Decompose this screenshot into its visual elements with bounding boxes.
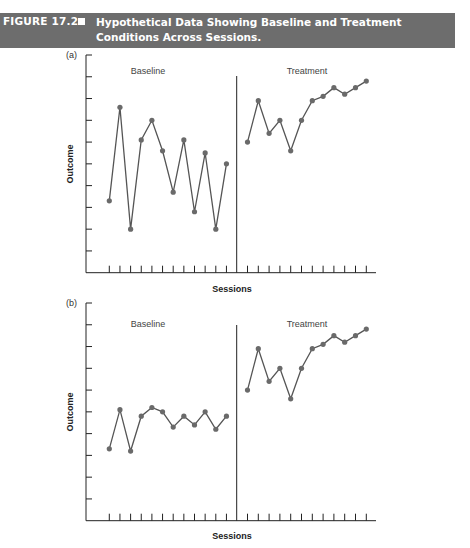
data-point	[160, 148, 165, 153]
chart-panel-b: (b)BaselineTreatmentSessionsOutcome	[65, 298, 376, 541]
data-point	[203, 150, 208, 155]
phase-label-baseline: Baseline	[131, 319, 166, 329]
data-point	[181, 137, 186, 142]
data-point	[245, 387, 250, 392]
data-point	[267, 131, 272, 136]
data-point	[288, 148, 293, 153]
data-point	[160, 409, 165, 414]
data-point	[321, 94, 326, 99]
data-point	[288, 396, 293, 401]
data-point	[213, 227, 218, 232]
data-point	[256, 346, 261, 351]
data-point	[224, 161, 229, 166]
data-point	[321, 342, 326, 347]
y-axis-label: Outcome	[65, 392, 75, 431]
data-point	[310, 346, 315, 351]
x-axis-label: Sessions	[212, 531, 252, 541]
x-axis-label: Sessions	[212, 284, 252, 294]
data-point	[353, 85, 358, 90]
data-point	[310, 98, 315, 103]
data-point	[277, 118, 282, 123]
phase-label-treatment: Treatment	[287, 66, 328, 76]
data-point	[245, 139, 250, 144]
data-point	[331, 333, 336, 338]
data-point	[117, 105, 122, 110]
phase-label-treatment: Treatment	[287, 319, 328, 329]
data-point	[149, 118, 154, 123]
data-point	[364, 327, 369, 332]
data-point	[128, 448, 133, 453]
y-axis-label: Outcome	[65, 144, 75, 183]
data-point	[277, 366, 282, 371]
data-point	[353, 333, 358, 338]
panel-label: (b)	[66, 298, 77, 308]
series-line-baseline	[109, 407, 226, 451]
data-point	[299, 366, 304, 371]
series-line-baseline	[109, 107, 226, 229]
data-point	[107, 198, 112, 203]
data-point	[213, 427, 218, 432]
data-point	[267, 379, 272, 384]
data-point	[139, 137, 144, 142]
data-point	[256, 98, 261, 103]
data-point	[203, 409, 208, 414]
data-point	[331, 85, 336, 90]
data-point	[192, 209, 197, 214]
data-point	[342, 92, 347, 97]
data-point	[181, 414, 186, 419]
data-point	[364, 79, 369, 84]
data-point	[192, 422, 197, 427]
series-line-treatment	[248, 329, 367, 399]
data-point	[171, 424, 176, 429]
chart-panel-a: (a)BaselineTreatmentSessionsOutcome	[65, 50, 376, 294]
data-point	[117, 407, 122, 412]
panel-label: (a)	[66, 50, 77, 60]
charts-canvas: (a)BaselineTreatmentSessionsOutcome (b)B…	[0, 0, 470, 548]
data-point	[149, 405, 154, 410]
data-point	[342, 340, 347, 345]
phase-label-baseline: Baseline	[131, 66, 166, 76]
data-point	[107, 446, 112, 451]
series-line-treatment	[248, 81, 367, 151]
data-point	[139, 414, 144, 419]
data-point	[299, 118, 304, 123]
data-point	[128, 227, 133, 232]
data-point	[224, 414, 229, 419]
data-point	[171, 190, 176, 195]
